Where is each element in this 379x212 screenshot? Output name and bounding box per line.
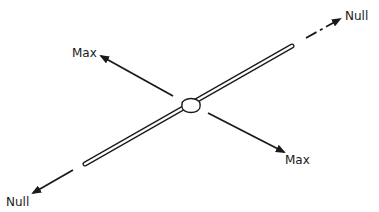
max-arrow-left — [101, 56, 173, 96]
null-arrow-top — [306, 19, 340, 38]
max-arrow-right — [208, 113, 284, 152]
null-arrow-bottom — [33, 170, 73, 193]
label-null-bottom: Null — [6, 196, 29, 208]
dipole-diagram — [0, 0, 379, 212]
label-null-top: Null — [345, 10, 368, 22]
label-max-left: Max — [72, 47, 97, 59]
label-max-right: Max — [285, 154, 310, 166]
feed-point — [182, 99, 200, 113]
